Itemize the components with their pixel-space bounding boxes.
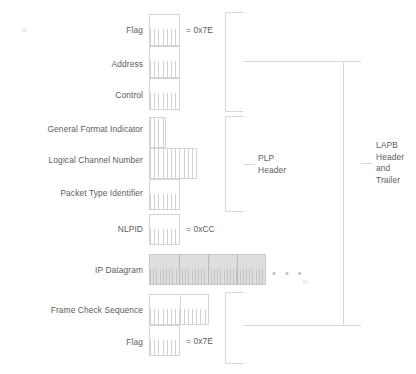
field-label-address: Address	[112, 59, 143, 69]
field-label-nlpid: NLPID	[118, 224, 143, 234]
bracket-plp-header	[225, 116, 243, 212]
bracket-lapb-trailer-segment	[225, 292, 243, 364]
bracket-tick-lapb-top	[243, 61, 343, 62]
field-box-nlpid	[149, 214, 180, 245]
field-box-general-format-indicator	[149, 117, 166, 148]
hatch-pattern	[150, 340, 179, 355]
field-box-flag-top	[149, 14, 180, 46]
field-box-flag-bottom	[149, 325, 180, 356]
value-annotation-flag-top: = 0x7E	[186, 25, 213, 35]
field-label-ip-datagram: IP Datagram	[95, 265, 143, 275]
cell-divider	[208, 255, 209, 284]
hatch-pattern	[150, 229, 179, 244]
hatch-pattern	[150, 149, 196, 178]
field-box-ip-datagram	[149, 254, 266, 285]
scan-artifact	[22, 28, 27, 32]
hatch-pattern	[150, 118, 165, 147]
continuation-ellipsis: • • •	[272, 268, 305, 278]
cell-divider	[180, 295, 181, 324]
field-label-general-format-indicator: General Format Indicator	[48, 124, 144, 134]
bracket-tick-lapb-bottom	[243, 325, 343, 326]
bracket-label-lapb-line3: and	[376, 163, 404, 175]
bracket-label-lapb-header-and-trailer: LAPB Header and Trailer	[376, 140, 404, 186]
field-label-logical-channel-number: Logical Channel Number	[49, 155, 143, 165]
bracket-label-plp-line1: PLP	[258, 153, 286, 165]
cell-divider	[237, 255, 238, 284]
bracket-label-plp-line2: Header	[258, 165, 286, 177]
field-box-packet-type-identifier	[149, 179, 180, 210]
bracket-label-lapb-line1: LAPB	[376, 140, 404, 152]
scan-artifact	[303, 280, 308, 284]
bracket-lapb-header-segment	[225, 12, 243, 112]
field-box-logical-channel-number	[149, 148, 197, 179]
packet-structure-diagram: Flag Address Control General Format Indi…	[0, 0, 416, 374]
value-annotation-flag-bottom: = 0x7E	[186, 336, 213, 346]
bracket-label-plp-header: PLP Header	[258, 153, 286, 176]
value-annotation-nlpid: = 0xCC	[186, 224, 215, 234]
bracket-tick-lapb-outer	[361, 163, 373, 164]
bracket-label-lapb-line4: Trailer	[376, 175, 404, 187]
cell-divider	[179, 255, 180, 284]
field-label-control: Control	[115, 90, 143, 100]
field-label-flag-bottom: Flag	[126, 337, 143, 347]
field-box-control	[149, 78, 180, 110]
field-label-packet-type-identifier: Packet Type Identifier	[60, 188, 143, 198]
hatch-pattern	[150, 93, 179, 109]
hatch-pattern	[150, 194, 179, 209]
bracket-tick-plp-header	[243, 164, 255, 165]
bracket-label-lapb-line2: Header	[376, 152, 404, 164]
hatch-pattern	[150, 29, 179, 45]
field-label-frame-check-sequence: Frame Check Sequence	[51, 305, 143, 315]
field-box-frame-check-sequence	[149, 294, 209, 325]
bracket-lapb-header-and-trailer	[343, 61, 361, 326]
field-label-flag-top: Flag	[126, 25, 143, 35]
hatch-pattern	[150, 61, 179, 77]
hatch-pattern	[150, 309, 208, 324]
field-box-address	[149, 46, 180, 78]
